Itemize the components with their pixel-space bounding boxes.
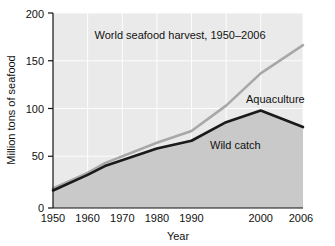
y-tick-label-200: 200 bbox=[26, 8, 44, 20]
chart-figure: 0 50 100 150 200 1950 1960 1970 1980 199… bbox=[0, 0, 335, 246]
x-tick-label-1970: 1970 bbox=[110, 212, 134, 224]
seafood-harvest-chart: 0 50 100 150 200 1950 1960 1970 1980 199… bbox=[0, 0, 335, 246]
x-tick-label-1950: 1950 bbox=[41, 212, 65, 224]
x-tick-label-2000: 2000 bbox=[248, 212, 272, 224]
x-tick-label-1960: 1960 bbox=[75, 212, 99, 224]
y-tick-label-50: 50 bbox=[32, 150, 44, 162]
y-axis-title: Million tons of seafood bbox=[5, 55, 17, 164]
chart-title: World seafood harvest, 1950–2006 bbox=[94, 29, 265, 41]
y-axis-ticks bbox=[48, 13, 53, 208]
x-tick-label-1990: 1990 bbox=[179, 212, 203, 224]
series-label-wild-catch: Wild catch bbox=[210, 139, 261, 151]
y-tick-label-150: 150 bbox=[26, 55, 44, 67]
x-axis-title: Year bbox=[167, 230, 190, 242]
x-tick-label-1980: 1980 bbox=[145, 212, 169, 224]
y-tick-label-100: 100 bbox=[26, 103, 44, 115]
series-label-aquaculture: Aquaculture bbox=[246, 93, 305, 105]
x-tick-label-2006: 2006 bbox=[289, 212, 313, 224]
